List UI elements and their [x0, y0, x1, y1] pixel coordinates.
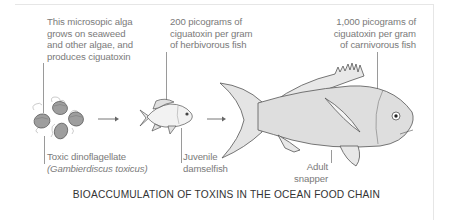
snapper-name-line2: snapper — [280, 173, 328, 185]
arrow-right-icon — [207, 117, 226, 122]
alga-name-line1: Toxic dinoflagellate — [47, 151, 148, 163]
snapper-name-leader — [331, 150, 332, 163]
damselfish-name-line2: damselfish — [183, 163, 228, 175]
damselfish-name-line1: Juvenile — [183, 151, 228, 163]
snapper-icon — [220, 63, 413, 166]
alga-name: Toxic dinoflagellate (Gambierdiscus toxi… — [47, 151, 148, 174]
diagram-title: BIOACCUMULATION OF TOXINS IN THE OCEAN F… — [0, 189, 453, 200]
damselfish-icon — [140, 99, 192, 134]
dinoflagellate-cells-icon — [32, 97, 85, 141]
alga-name-leader — [44, 136, 45, 164]
arrow-right-icon — [98, 117, 119, 122]
food-chain-illustration — [0, 0, 453, 220]
alga-name-line2: (Gambierdiscus toxicus) — [47, 163, 148, 175]
damselfish-name: Juvenile damselfish — [183, 151, 228, 174]
alga-scientific-name: (Gambierdiscus toxicus) — [47, 163, 148, 174]
snapper-name: Adult snapper — [280, 161, 328, 184]
snapper-name-line1: Adult — [280, 161, 328, 173]
damselfish-name-leader — [181, 128, 182, 163]
